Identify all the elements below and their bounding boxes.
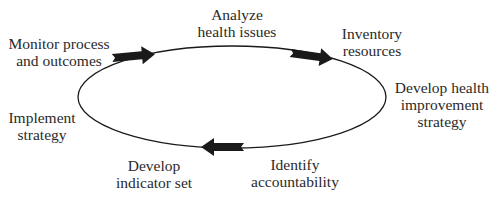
step-inventory-resources: Inventory resources <box>334 25 410 59</box>
step-label-line: resources <box>334 42 410 59</box>
step-label-line: Analyze <box>182 6 292 23</box>
step-label-line: Implement <box>4 109 80 126</box>
step-label-line: Develop health <box>390 79 494 96</box>
step-label-line: indicator set <box>104 174 204 191</box>
cycle-diagram: Analyze health issues Inventory resource… <box>0 0 496 198</box>
step-implement-strategy: Implement strategy <box>4 109 80 143</box>
step-label-line: Identify <box>245 156 345 173</box>
arrow-right-icon <box>289 44 334 68</box>
step-identify-accountability: Identify accountability <box>245 156 345 190</box>
arrow-left-icon <box>201 138 244 156</box>
step-develop-indicator-set: Develop indicator set <box>104 157 204 191</box>
arrow-right-icon <box>111 45 155 67</box>
step-monitor-process-and-outcomes: Monitor process and outcomes <box>4 35 114 69</box>
step-analyze-health-issues: Analyze health issues <box>182 6 292 40</box>
step-label-line: Develop <box>104 157 204 174</box>
cycle-ellipse <box>78 46 386 148</box>
step-label-line: strategy <box>390 113 494 130</box>
step-label-line: strategy <box>4 126 80 143</box>
step-label-line: accountability <box>245 173 345 190</box>
step-label-line: improvement <box>390 96 494 113</box>
step-label-line: Monitor process <box>4 35 114 52</box>
step-label-line: health issues <box>182 23 292 40</box>
step-develop-health-improvement-strategy: Develop health improvement strategy <box>390 79 494 130</box>
step-label-line: Inventory <box>334 25 410 42</box>
step-label-line: and outcomes <box>4 52 114 69</box>
